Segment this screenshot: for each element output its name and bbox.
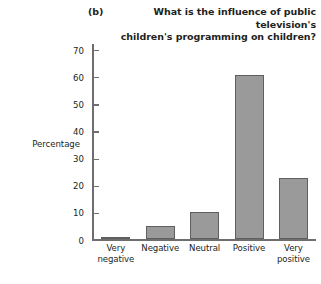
bar-slot [94,44,138,239]
x-tick-label-neutral: Neutral [182,243,226,265]
chart-title-block: (b) What is the influence of public tele… [88,6,316,44]
bar-positive[interactable] [235,75,264,239]
x-axis-tick-labels: Very negativeNegativeNeutralPositiveVery… [94,243,316,265]
bar-neutral[interactable] [190,212,219,239]
bar-series [94,44,316,239]
tick-label: 50 [73,100,84,109]
chart-title-line-2: children's programming on children? [121,31,316,42]
x-tick-label-very-negative: Very negative [94,243,138,265]
y-axis-label: Percentage [8,139,80,150]
tick-label: 20 [73,182,84,191]
tick-mark [94,240,99,241]
tick-label: 0 [79,236,84,245]
panel-letter: (b) [88,6,112,19]
tick-label: 60 [73,73,84,82]
x-axis-line [92,239,316,241]
bar-slot [182,44,226,239]
plot-area: 010203040506070 [92,44,316,241]
bar-slot [227,44,271,239]
tick-label: 10 [73,209,84,218]
bar-chart-figure: (b) What is the influence of public tele… [0,0,321,284]
bar-very-positive[interactable] [279,178,308,239]
tick-label: 40 [73,128,84,137]
bar-very-negative[interactable] [101,237,130,240]
x-tick-label-positive: Positive [227,243,271,265]
bar-slot [271,44,315,239]
x-tick-label-very-positive: Very positive [271,243,315,265]
tick-label: 70 [73,46,84,55]
x-tick-label-negative: Negative [138,243,182,265]
bar-slot [138,44,182,239]
bar-negative[interactable] [146,226,175,240]
tick-label: 30 [73,155,84,164]
page-title: What is the influence of public televisi… [112,6,316,44]
chart-title-line-1: What is the influence of public televisi… [154,6,316,30]
y-tick-0: 0 [92,240,99,241]
